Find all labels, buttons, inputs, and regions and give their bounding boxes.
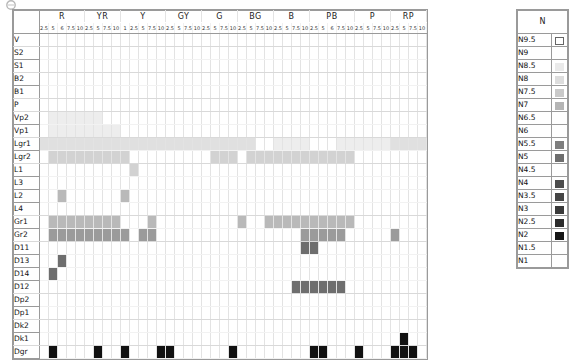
tone-cell-empty[interactable] xyxy=(400,307,409,320)
tone-cell-empty[interactable] xyxy=(94,34,103,47)
tone-cell-empty[interactable] xyxy=(112,99,121,112)
tone-cell-empty[interactable] xyxy=(193,229,202,242)
tone-cell-filled[interactable] xyxy=(229,151,238,164)
tone-cell-filled[interactable] xyxy=(49,138,58,151)
tone-cell-empty[interactable] xyxy=(58,268,67,281)
tone-cell-filled[interactable] xyxy=(238,216,247,229)
tone-cell-empty[interactable] xyxy=(157,190,166,203)
tone-cell-filled[interactable] xyxy=(310,346,319,359)
neutral-swatch[interactable] xyxy=(552,190,568,203)
tone-cell-filled[interactable] xyxy=(166,138,175,151)
tone-cell-empty[interactable] xyxy=(103,333,112,346)
tone-cell-empty[interactable] xyxy=(391,307,400,320)
tone-cell-empty[interactable] xyxy=(418,268,427,281)
tone-cell-empty[interactable] xyxy=(364,320,373,333)
tone-cell-filled[interactable] xyxy=(58,138,67,151)
tone-cell-empty[interactable] xyxy=(346,177,355,190)
tone-cell-filled[interactable] xyxy=(328,151,337,164)
tone-cell-empty[interactable] xyxy=(94,47,103,60)
tone-cell-empty[interactable] xyxy=(85,164,94,177)
tone-cell-empty[interactable] xyxy=(175,164,184,177)
tone-cell-empty[interactable] xyxy=(346,320,355,333)
tone-cell-empty[interactable] xyxy=(229,268,238,281)
tone-cell-empty[interactable] xyxy=(364,216,373,229)
neutral-swatch[interactable] xyxy=(552,138,568,151)
tone-cell-filled[interactable] xyxy=(112,125,121,138)
tone-cell-empty[interactable] xyxy=(346,281,355,294)
tone-cell-empty[interactable] xyxy=(418,229,427,242)
tone-cell-empty[interactable] xyxy=(319,333,328,346)
tone-cell-empty[interactable] xyxy=(337,346,346,359)
tone-cell-empty[interactable] xyxy=(166,320,175,333)
tone-cell-empty[interactable] xyxy=(67,255,76,268)
tone-cell-empty[interactable] xyxy=(409,242,418,255)
tone-cell-empty[interactable] xyxy=(76,307,85,320)
tone-cell-empty[interactable] xyxy=(373,125,382,138)
tone-cell-empty[interactable] xyxy=(418,112,427,125)
tone-cell-filled[interactable] xyxy=(49,229,58,242)
tone-cell-empty[interactable] xyxy=(40,34,49,47)
tone-cell-empty[interactable] xyxy=(382,112,391,125)
tone-cell-empty[interactable] xyxy=(346,99,355,112)
neutral-swatch[interactable] xyxy=(552,242,568,255)
tone-cell-empty[interactable] xyxy=(364,177,373,190)
neutral-swatch[interactable] xyxy=(552,47,568,60)
tone-cell-empty[interactable] xyxy=(40,112,49,125)
tone-cell-empty[interactable] xyxy=(193,320,202,333)
tone-cell-empty[interactable] xyxy=(283,203,292,216)
tone-cell-filled[interactable] xyxy=(274,151,283,164)
tone-cell-empty[interactable] xyxy=(58,281,67,294)
tone-cell-empty[interactable] xyxy=(247,320,256,333)
tone-cell-empty[interactable] xyxy=(310,268,319,281)
tone-cell-empty[interactable] xyxy=(157,203,166,216)
tone-cell-empty[interactable] xyxy=(67,190,76,203)
tone-cell-empty[interactable] xyxy=(139,320,148,333)
tone-cell-empty[interactable] xyxy=(157,86,166,99)
tone-cell-filled[interactable] xyxy=(112,151,121,164)
tone-cell-empty[interactable] xyxy=(265,190,274,203)
tone-cell-filled[interactable] xyxy=(76,138,85,151)
tone-cell-empty[interactable] xyxy=(409,151,418,164)
tone-cell-empty[interactable] xyxy=(274,268,283,281)
tone-cell-empty[interactable] xyxy=(337,99,346,112)
tone-cell-empty[interactable] xyxy=(193,47,202,60)
tone-cell-empty[interactable] xyxy=(274,281,283,294)
tone-cell-empty[interactable] xyxy=(130,112,139,125)
tone-cell-empty[interactable] xyxy=(382,229,391,242)
tone-cell-empty[interactable] xyxy=(229,73,238,86)
tone-cell-empty[interactable] xyxy=(148,86,157,99)
tone-cell-empty[interactable] xyxy=(292,333,301,346)
tone-cell-empty[interactable] xyxy=(337,73,346,86)
tone-cell-empty[interactable] xyxy=(85,333,94,346)
tone-cell-empty[interactable] xyxy=(373,333,382,346)
tone-cell-filled[interactable] xyxy=(76,112,85,125)
tone-cell-empty[interactable] xyxy=(103,190,112,203)
tone-cell-empty[interactable] xyxy=(274,73,283,86)
tone-cell-empty[interactable] xyxy=(409,268,418,281)
tone-cell-empty[interactable] xyxy=(355,203,364,216)
tone-cell-empty[interactable] xyxy=(67,320,76,333)
tone-cell-empty[interactable] xyxy=(139,242,148,255)
tone-cell-empty[interactable] xyxy=(76,268,85,281)
tone-cell-empty[interactable] xyxy=(175,73,184,86)
tone-cell-empty[interactable] xyxy=(139,268,148,281)
tone-cell-empty[interactable] xyxy=(274,203,283,216)
tone-cell-filled[interactable] xyxy=(283,138,292,151)
tone-cell-empty[interactable] xyxy=(319,255,328,268)
tone-cell-empty[interactable] xyxy=(85,307,94,320)
tone-cell-empty[interactable] xyxy=(121,34,130,47)
tone-cell-empty[interactable] xyxy=(184,190,193,203)
tone-cell-empty[interactable] xyxy=(40,281,49,294)
tone-cell-empty[interactable] xyxy=(130,307,139,320)
tone-cell-filled[interactable] xyxy=(94,125,103,138)
tone-cell-empty[interactable] xyxy=(418,242,427,255)
tone-cell-empty[interactable] xyxy=(292,125,301,138)
tone-cell-empty[interactable] xyxy=(184,268,193,281)
tone-cell-empty[interactable] xyxy=(94,333,103,346)
tone-cell-empty[interactable] xyxy=(112,177,121,190)
tone-cell-empty[interactable] xyxy=(247,73,256,86)
tone-cell-filled[interactable] xyxy=(94,229,103,242)
tone-cell-empty[interactable] xyxy=(184,112,193,125)
tone-cell-empty[interactable] xyxy=(40,242,49,255)
tone-cell-empty[interactable] xyxy=(202,294,211,307)
